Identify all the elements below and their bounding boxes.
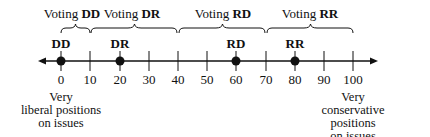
tick-label-70: 70	[260, 73, 273, 87]
point-rd	[232, 57, 241, 66]
range-label-dd: Voting DD	[44, 7, 100, 21]
left-note-line-3: on issues	[21, 117, 101, 130]
point-label-rd: RD	[227, 37, 246, 51]
point-dr	[116, 57, 125, 66]
left-arrow-icon	[38, 58, 46, 65]
right-note: Very conservative positions on issues	[315, 91, 392, 137]
tick-label-20: 20	[114, 73, 127, 87]
point-rr	[291, 57, 300, 66]
right-note-line-3: on issues	[315, 130, 392, 137]
tick-label-50: 50	[201, 73, 214, 87]
range-label-rd: Voting RD	[195, 7, 251, 21]
brace-rd	[179, 24, 265, 33]
range-braces	[61, 24, 353, 33]
tick-label-100: 100	[343, 73, 363, 87]
point-label-dd: DD	[52, 37, 71, 51]
tick-label-90: 90	[318, 73, 331, 87]
tick-label-10: 10	[84, 73, 97, 87]
tick-label-40: 40	[172, 73, 185, 87]
point-label-rr: RR	[286, 37, 305, 51]
left-note: Very liberal positions on issues	[21, 91, 101, 130]
point-label-dr: DR	[111, 37, 130, 51]
brace-dr	[91, 24, 177, 33]
brace-rr	[267, 24, 353, 33]
tick-label-0: 0	[58, 73, 65, 87]
tick-label-80: 80	[289, 73, 302, 87]
brace-dd	[61, 24, 90, 33]
right-note-line-2: conservative positions	[315, 104, 392, 130]
tick-label-30: 30	[143, 73, 156, 87]
range-label-dr: Voting DR	[104, 7, 160, 21]
point-dd	[57, 57, 66, 66]
right-arrow-icon	[370, 58, 378, 65]
range-label-rr: Voting RR	[282, 7, 338, 21]
tick-label-60: 60	[230, 73, 243, 87]
